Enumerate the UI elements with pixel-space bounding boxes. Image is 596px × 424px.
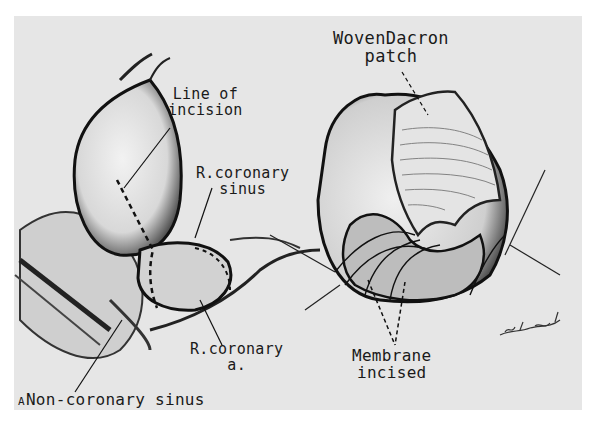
label-woven-dacron-patch: WovenDacron patch [333, 30, 449, 66]
label-text: Non-coronary sinus [26, 390, 205, 409]
panel-letter: A [18, 395, 25, 408]
label-line: patch [333, 48, 449, 66]
label-line: sinus [196, 182, 289, 198]
label-line: incision [168, 103, 243, 119]
label-line-of-incision: Line of incision [168, 87, 243, 119]
label-non-coronary-sinus: ANon-coronary sinus [18, 392, 205, 409]
label-line: incised [352, 365, 431, 382]
label-line: a. [190, 358, 283, 374]
label-membrane-incised: Membrane incised [352, 348, 431, 382]
right-heart-drawing [270, 72, 560, 345]
label-r-coronary-sinus: R.coronary sinus [196, 166, 289, 198]
artist-signature [500, 312, 560, 335]
label-r-coronary-artery: R.coronary a. [190, 342, 283, 374]
surgical-illustration [0, 0, 596, 424]
